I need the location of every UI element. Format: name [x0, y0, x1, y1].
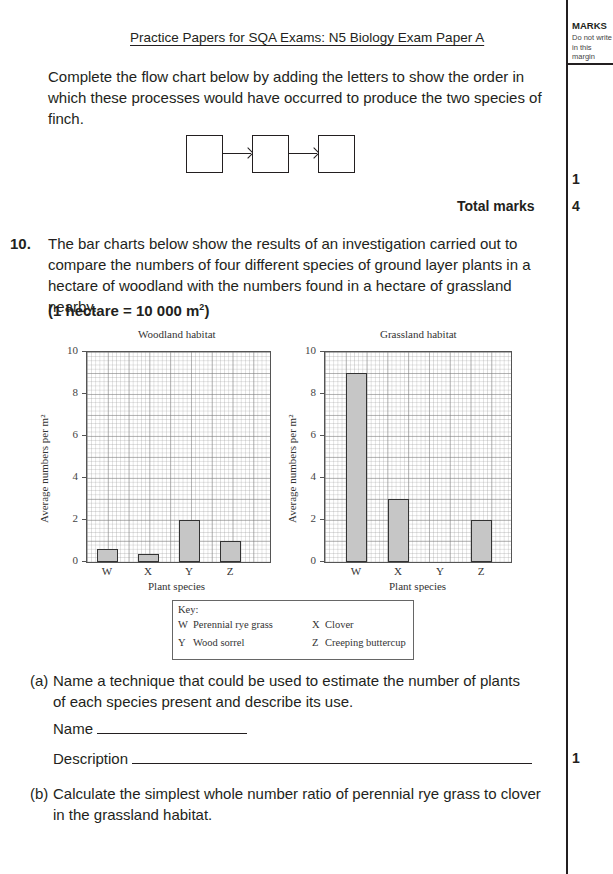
y-tick-label: 10 — [296, 344, 316, 356]
name-field: Name — [53, 718, 247, 739]
chart-key: Key: W Perennial rye grass X Clover Y Wo… — [172, 600, 414, 660]
y-tick-label: 0 — [58, 554, 78, 566]
x-axis-label: Plant species — [389, 580, 446, 592]
y-tick — [82, 519, 86, 520]
y-tick — [320, 519, 324, 520]
marks-instruction: Do not write in this margin — [572, 33, 613, 62]
x-category-label: X — [388, 565, 408, 577]
flowchart-instruction: Complete the flow chart below by adding … — [48, 66, 558, 129]
x-category-label: W — [346, 565, 366, 577]
y-tick-label: 6 — [296, 428, 316, 440]
marks-margin-divider — [566, 63, 613, 65]
description-answer-line[interactable] — [132, 763, 532, 764]
y-tick-label: 2 — [58, 512, 78, 524]
y-tick-label: 6 — [58, 428, 78, 440]
x-axis-label: Plant species — [148, 580, 205, 592]
y-tick-label: 2 — [296, 512, 316, 524]
y-tick — [82, 393, 86, 394]
y-tick — [320, 435, 324, 436]
y-tick-label: 8 — [296, 386, 316, 398]
part-a-label: (a) — [30, 670, 48, 691]
question-number: 10. — [10, 233, 31, 254]
part-b-label: (b) — [30, 783, 48, 804]
bar-W — [346, 373, 367, 562]
y-tick — [320, 393, 324, 394]
key-name-y: Wood sorrel — [193, 637, 244, 648]
bar-Z — [220, 541, 241, 562]
y-tick — [320, 351, 324, 352]
y-axis-label: Average numbers per m² — [286, 415, 298, 523]
x-category-label: X — [138, 565, 158, 577]
hectare-note: (1 hectare = 10 000 m2) — [48, 297, 209, 321]
bar-X — [388, 499, 409, 562]
name-label: Name — [53, 720, 93, 737]
page-header: Practice Papers for SQA Exams: N5 Biolog… — [130, 30, 484, 45]
chart-title: Grassland habitat — [380, 328, 457, 340]
name-answer-line[interactable] — [97, 733, 247, 734]
key-letter-z: Z — [312, 637, 318, 648]
marks-margin-line — [566, 0, 568, 874]
y-tick — [82, 561, 86, 562]
y-tick-label: 4 — [296, 470, 316, 482]
flow-box-2[interactable] — [252, 135, 289, 173]
key-letter-x: X — [312, 619, 320, 630]
y-tick — [82, 435, 86, 436]
x-category-label: Y — [430, 565, 450, 577]
description-label: Description — [53, 750, 128, 767]
x-category-label: Z — [471, 565, 491, 577]
chart-plot-area — [324, 351, 512, 563]
marks-part-a: 1 — [572, 750, 580, 766]
marks-flowchart: 1 — [572, 171, 580, 187]
bar-W — [97, 549, 118, 562]
marks-heading: MARKS — [572, 20, 607, 31]
description-field: Description — [53, 748, 532, 769]
x-category-label: Y — [179, 565, 199, 577]
y-axis-label: Average numbers per m² — [38, 415, 50, 523]
chart-plot-area — [86, 351, 271, 563]
y-tick-label: 0 — [296, 554, 316, 566]
bar-X — [138, 554, 159, 562]
key-letter-y: Y — [178, 637, 186, 648]
part-a-text: Name a technique that could be used to e… — [53, 670, 523, 712]
chart-title: Woodland habitat — [138, 328, 216, 340]
y-tick-label: 8 — [58, 386, 78, 398]
y-tick — [82, 351, 86, 352]
bar-Y — [179, 520, 200, 562]
arrow-right-icon — [223, 153, 251, 154]
x-category-label: W — [97, 565, 117, 577]
arrow-right-icon — [289, 153, 317, 154]
key-title: Key: — [178, 604, 198, 615]
key-name-w: Perennial rye grass — [193, 619, 273, 630]
key-name-z: Creeping buttercup — [325, 637, 406, 648]
y-tick — [82, 477, 86, 478]
y-tick-label: 10 — [58, 344, 78, 356]
part-b-text: Calculate the simplest whole number rati… — [53, 783, 543, 825]
y-tick — [320, 477, 324, 478]
flow-box-1[interactable] — [186, 135, 223, 173]
total-marks-value: 4 — [572, 198, 580, 214]
bar-Z — [471, 520, 492, 562]
key-letter-w: W — [178, 619, 188, 630]
y-tick-label: 4 — [58, 470, 78, 482]
y-tick — [320, 561, 324, 562]
total-marks-label: Total marks — [457, 198, 535, 214]
key-name-x: Clover — [325, 619, 354, 630]
flow-box-3[interactable] — [318, 135, 355, 173]
x-category-label: Z — [220, 565, 240, 577]
